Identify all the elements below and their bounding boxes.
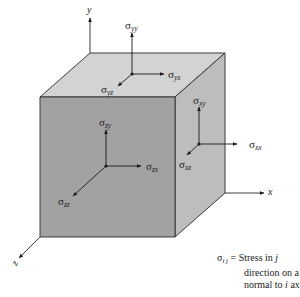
sigma-yy-label: σyy [125, 20, 138, 33]
sigma-zz-label: σzz [58, 196, 70, 209]
x-axis-label: x [268, 187, 272, 197]
top-origin-dot [130, 72, 133, 75]
right-origin-dot [197, 142, 200, 145]
sigma-zy-label: σzy [99, 117, 111, 130]
legend-line-2: direction on a face [217, 267, 300, 279]
front-origin-dot [104, 164, 107, 167]
sigma-yx-label: σyx [168, 69, 181, 82]
sigma-xy-label: σxy [193, 95, 206, 108]
sigma-zx-label: σzx [146, 161, 158, 174]
sigma-xz-label: σxz [179, 159, 191, 172]
sigma-xx-label: σxx [249, 139, 262, 152]
z-axis [19, 237, 40, 258]
y-axis-label: y [87, 5, 91, 15]
sigma-yz-label: σyz [101, 84, 113, 97]
stress-notation-legend: σi j = Stress in j direction on a face n… [217, 252, 300, 291]
legend-line-3: normal to i axis [217, 279, 300, 291]
legend-line-1: σi j = Stress in j [217, 252, 300, 267]
